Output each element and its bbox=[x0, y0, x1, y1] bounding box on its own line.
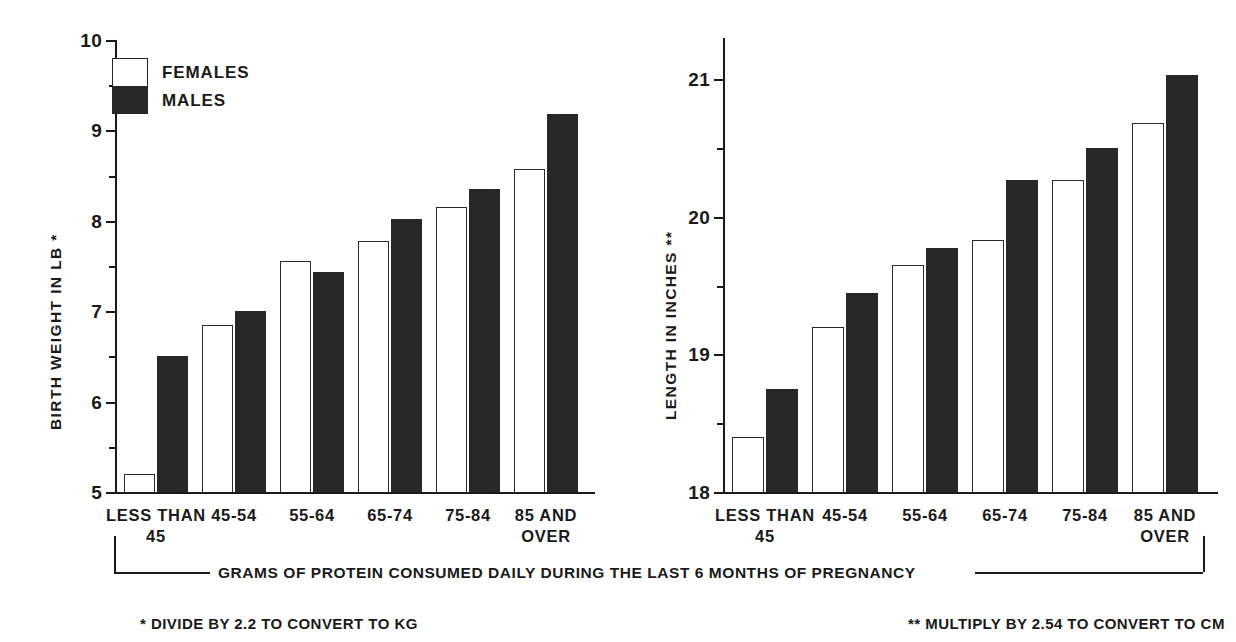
bracket-left-tick bbox=[114, 536, 116, 572]
bar-males bbox=[157, 356, 188, 492]
bar-males bbox=[313, 272, 344, 492]
x-category-label: 85 ANDOVER bbox=[471, 505, 621, 546]
bar-males bbox=[1166, 75, 1198, 492]
bar-males bbox=[235, 311, 266, 492]
footnote-right: ** MULTIPLY BY 2.54 TO CONVERT TO CM bbox=[908, 616, 1225, 631]
bar-females bbox=[358, 241, 389, 492]
bar-males bbox=[391, 219, 422, 492]
x-axis-caption: GRAMS OF PROTEIN CONSUMED DAILY DURING T… bbox=[218, 565, 916, 581]
bar-females bbox=[124, 474, 155, 492]
x-category-label-line2: 45 bbox=[690, 526, 840, 547]
birth-weight-chart-panel: BIRTH WEIGHT IN LB * 1098765 FEMALES MAL… bbox=[0, 0, 618, 642]
x-category-label-line1: 85 AND bbox=[1134, 506, 1196, 524]
x-axis-line bbox=[115, 492, 595, 494]
bar-females bbox=[436, 207, 467, 492]
bar-group-container-birth-weight bbox=[0, 0, 618, 492]
bracket-line-left bbox=[114, 572, 210, 574]
x-category-label: 85 ANDOVER bbox=[1090, 505, 1236, 546]
bar-males bbox=[1086, 148, 1118, 492]
bar-females bbox=[1052, 180, 1084, 492]
x-category-label-line1: 85 AND bbox=[515, 506, 577, 524]
bar-females bbox=[972, 240, 1004, 492]
bar-females bbox=[202, 325, 233, 492]
x-category-label-line2: OVER bbox=[1090, 526, 1236, 547]
x-axis-line bbox=[723, 492, 1218, 494]
bar-males bbox=[766, 389, 798, 492]
bar-females bbox=[514, 169, 545, 492]
bar-group-container-length bbox=[618, 0, 1236, 492]
bar-males bbox=[926, 248, 958, 492]
bar-males bbox=[846, 293, 878, 492]
footnote-left: * DIVIDE BY 2.2 TO CONVERT TO KG bbox=[140, 616, 418, 631]
bracket-line-right bbox=[975, 572, 1203, 574]
x-category-label-line2: OVER bbox=[471, 526, 621, 547]
bar-males bbox=[1006, 180, 1038, 492]
bar-females bbox=[280, 261, 311, 492]
bar-females bbox=[892, 265, 924, 492]
bar-males bbox=[469, 189, 500, 492]
bar-males bbox=[547, 114, 578, 492]
x-category-label-line2: 45 bbox=[81, 526, 231, 547]
y-tick-major bbox=[714, 492, 725, 494]
length-chart-panel: LENGTH IN INCHES ** 21201918 LESS THAN45… bbox=[618, 0, 1236, 642]
y-tick-major bbox=[106, 492, 117, 494]
bar-females bbox=[732, 437, 764, 492]
bracket-right-tick bbox=[1203, 536, 1205, 572]
bar-females bbox=[812, 327, 844, 492]
bar-females bbox=[1132, 123, 1164, 492]
